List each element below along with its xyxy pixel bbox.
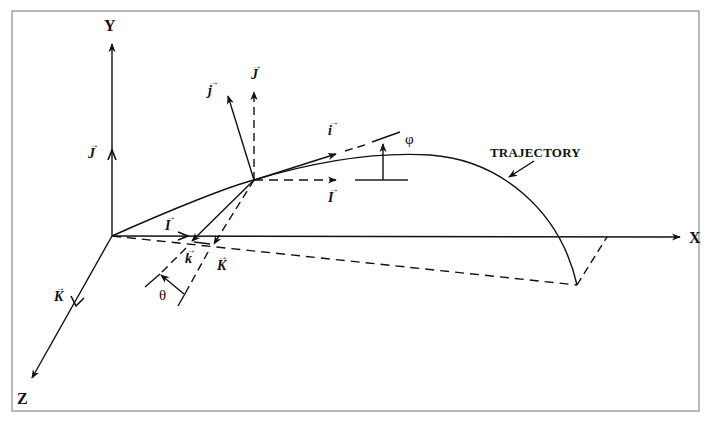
y-axis-label: Y: [104, 18, 116, 34]
k-body-extension: [160, 248, 186, 274]
k-global-label-z-axis: →K: [54, 290, 63, 304]
vector-arrow-icon: →: [89, 140, 99, 150]
i-global-label-point: →I: [328, 191, 333, 205]
vector-arrow-icon: →: [209, 77, 219, 87]
landing-to-x-axis-line: [577, 237, 607, 285]
ground-projection-line: [112, 236, 577, 285]
diagram-canvas: [0, 0, 719, 423]
trajectory-pointer: [509, 161, 534, 177]
vector-arrow-icon: →: [252, 61, 262, 71]
trajectory-curve: [112, 154, 577, 285]
phi-label: φ: [405, 132, 414, 147]
theta-label: θ: [159, 288, 166, 303]
x-axis-label: X: [689, 230, 701, 246]
j-global-label-point: →J: [251, 68, 258, 82]
tangent-tick: [372, 132, 400, 142]
z-axis-label: Z: [17, 391, 28, 407]
j-body-vector: [228, 96, 254, 180]
projection-foot-mark: [194, 242, 210, 244]
vector-arrow-icon: →: [329, 184, 339, 194]
j-global-label-y-axis: →J: [88, 147, 95, 161]
trajectory-label: TRAJECTORY: [490, 146, 581, 159]
k-global-label-point: →K: [217, 259, 226, 273]
k-global-at-point: [214, 180, 254, 244]
figure-frame: [12, 11, 699, 411]
vector-arrow-icon: →: [55, 283, 65, 293]
tangent-extension: [345, 144, 368, 151]
k-body-label: →k: [185, 252, 192, 266]
i-body-vector: [254, 154, 336, 180]
vector-arrow-icon: →: [329, 117, 339, 127]
vector-arrow-icon: →: [186, 245, 196, 255]
j-body-label: →j: [208, 84, 212, 98]
theta-left-tick: [145, 274, 160, 287]
theta-right-tick: [178, 292, 186, 306]
z-axis: [32, 236, 112, 378]
vector-arrow-icon: →: [166, 212, 176, 222]
vector-arrow-icon: →: [218, 252, 228, 262]
k-body-vector: [192, 180, 254, 241]
i-global-label-x-axis: →I: [165, 219, 170, 233]
trajectory-diagram: Y X Z →J →J →j →i →I →I →k →K →K φ θ TRA…: [0, 0, 719, 423]
i-body-label: →i: [328, 124, 332, 138]
